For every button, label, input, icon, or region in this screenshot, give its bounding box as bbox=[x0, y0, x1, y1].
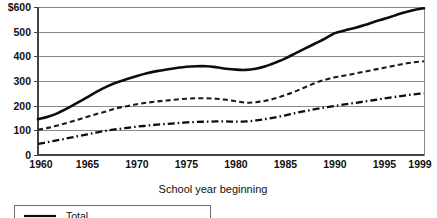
x-tick-label-1970: 1970 bbox=[125, 158, 149, 170]
line-chart: 0100200300400500$600 1960196519701975198… bbox=[0, 0, 437, 218]
series-line-total bbox=[38, 8, 424, 119]
data-series-group bbox=[38, 8, 424, 144]
chart-container: 0100200300400500$600 1960196519701975198… bbox=[0, 0, 437, 218]
y-tick-label-100: 100 bbox=[13, 124, 31, 136]
x-axis-title: School year beginning bbox=[159, 183, 268, 195]
x-tick-label-1960: 1960 bbox=[29, 158, 53, 170]
x-tick-label-1975: 1975 bbox=[175, 158, 199, 170]
series-line-dashed bbox=[38, 61, 424, 130]
tick-marks-group bbox=[34, 8, 38, 156]
y-tick-label-400: 400 bbox=[13, 50, 31, 62]
x-axis-tick-labels: 196019651970197519801985199019951999 bbox=[29, 158, 432, 170]
x-tick-label-1985: 1985 bbox=[274, 158, 298, 170]
x-tick-label-1995: 1995 bbox=[373, 158, 397, 170]
y-tick-label-500: 500 bbox=[13, 26, 31, 38]
y-tick-label-300: 300 bbox=[13, 75, 31, 87]
y-tick-label-200: 200 bbox=[13, 100, 31, 112]
x-tick-label-1980: 1980 bbox=[224, 158, 248, 170]
legend: Total bbox=[14, 205, 210, 218]
legend-label-total: Total bbox=[66, 210, 88, 218]
y-axis-tick-labels: 0100200300400500$600 bbox=[8, 1, 32, 161]
x-tick-label-1965: 1965 bbox=[76, 158, 100, 170]
x-tick-label-1990: 1990 bbox=[323, 158, 347, 170]
x-tick-label-1999: 1999 bbox=[408, 158, 432, 170]
y-tick-label-600: $600 bbox=[8, 1, 32, 13]
